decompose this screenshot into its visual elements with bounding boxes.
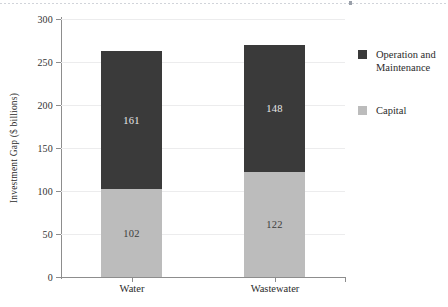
y-tick-label-200: 200 <box>37 100 53 111</box>
y-tick-label-100: 100 <box>37 186 53 197</box>
x-axis-label-water: Water <box>120 283 145 294</box>
bar-water-om-value: 161 <box>123 115 140 126</box>
y-tick-50 <box>56 234 61 235</box>
y-tick-label-50: 50 <box>43 229 53 240</box>
y-tick-label-250: 250 <box>37 57 53 68</box>
bar-wastewater[interactable]: 148 122 <box>244 45 305 277</box>
legend-item-operation-and-maintenance[interactable]: Operation and Maintenance <box>358 48 448 74</box>
bar-water[interactable]: 161 102 <box>101 51 162 277</box>
plot-area: 300 250 200 150 100 50 0 161 102 148 122 <box>61 19 345 277</box>
bar-wastewater-om-value: 148 <box>266 103 283 114</box>
legend-label-capital: Capital <box>376 104 406 117</box>
bar-wastewater-segment-capital[interactable]: 122 <box>244 172 305 277</box>
y-tick-250 <box>56 62 61 63</box>
stacked-bar-chart-figure: Investment Gap ($ billions) 300 250 200 … <box>0 0 448 307</box>
y-tick-100 <box>56 191 61 192</box>
bar-water-capital-value: 102 <box>123 228 140 239</box>
x-axis-line <box>61 277 346 278</box>
legend-label-operation-and-maintenance: Operation and Maintenance <box>376 48 436 74</box>
y-tick-150 <box>56 148 61 149</box>
y-tick-label-150: 150 <box>37 143 53 154</box>
y-axis-title: Investment Gap ($ billions) <box>9 93 19 203</box>
legend-item-capital[interactable]: Capital <box>358 104 448 117</box>
y-tick-0 <box>56 277 61 278</box>
y-tick-label-300: 300 <box>37 14 53 25</box>
y-tick-200 <box>56 105 61 106</box>
bar-water-segment-capital[interactable]: 102 <box>101 189 162 277</box>
bar-wastewater-segment-operation-and-maintenance[interactable]: 148 <box>244 45 305 172</box>
chart-legend: Operation and Maintenance Capital <box>358 48 448 147</box>
y-tick-label-0: 0 <box>48 272 53 283</box>
page-top-rule-mark <box>349 1 352 5</box>
gridline-300 <box>61 19 345 20</box>
legend-swatch-capital-icon <box>358 106 367 115</box>
x-tick-water <box>132 277 133 282</box>
bar-wastewater-capital-value: 122 <box>266 219 283 230</box>
bar-water-segment-operation-and-maintenance[interactable]: 161 <box>101 51 162 189</box>
x-axis-label-wastewater: Wastewater <box>251 283 300 294</box>
legend-swatch-operation-and-maintenance-icon <box>358 50 367 59</box>
x-axis-end-tick <box>345 277 346 282</box>
y-tick-300 <box>56 19 61 20</box>
page-top-dotted-rule <box>0 3 448 4</box>
x-tick-wastewater <box>275 277 276 282</box>
